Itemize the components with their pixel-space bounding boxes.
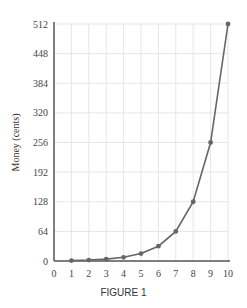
figure-caption: FIGURE 1 (0, 287, 247, 298)
data-point (191, 199, 196, 204)
data-point (121, 255, 126, 260)
x-tick-label: 1 (69, 268, 74, 279)
x-tick-label: 4 (121, 268, 126, 279)
data-point (156, 244, 161, 249)
x-tick-label: 8 (191, 268, 196, 279)
y-tick-label: 192 (33, 167, 48, 178)
data-point (226, 22, 231, 27)
x-tick-label: 7 (173, 268, 178, 279)
y-tick-label: 320 (33, 107, 48, 118)
data-point (86, 258, 91, 263)
x-tick-label: 2 (86, 268, 91, 279)
x-tick-label: 5 (139, 268, 144, 279)
data-point (104, 257, 109, 262)
y-tick-label: 64 (38, 226, 48, 237)
x-tick-label: 3 (104, 268, 109, 279)
y-tick-label: 256 (33, 137, 48, 148)
y-tick-label: 128 (33, 196, 48, 207)
y-tick-label: 384 (33, 78, 48, 89)
data-point (69, 258, 74, 263)
y-tick-label: 512 (33, 19, 48, 30)
y-axis-label: Money (cents) (10, 113, 22, 171)
y-tick-label: 0 (43, 256, 48, 267)
x-tick-label: 0 (52, 268, 57, 279)
line-chart: 064128192256320384448512012345678910Mone… (0, 0, 247, 308)
data-point (139, 251, 144, 256)
x-tick-label: 6 (156, 268, 161, 279)
x-tick-label: 10 (223, 268, 233, 279)
y-tick-label: 448 (33, 48, 48, 59)
data-point (208, 140, 213, 145)
x-tick-label: 9 (208, 268, 213, 279)
data-point (173, 229, 178, 234)
